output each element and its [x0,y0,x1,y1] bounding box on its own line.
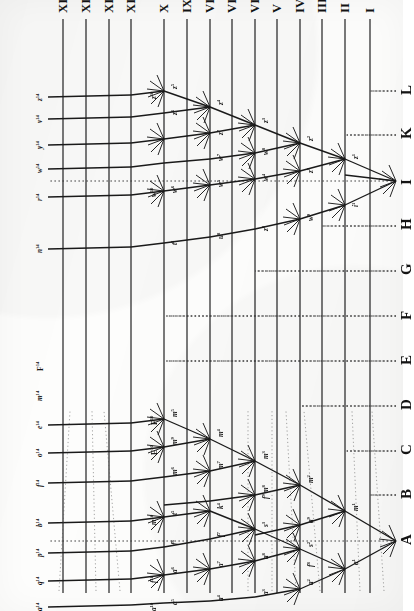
stratum-label-VI: VI [249,0,262,13]
stratum-label-V: V [271,4,284,13]
branch-label-a4: a4 [217,595,226,601]
branch-label-z4: z4 [217,100,226,105]
taxon-label-top-11: w14 [36,164,45,173]
base-species-B: B [399,489,414,499]
branch-label-a7: a7 [217,561,226,567]
taxon-label-top-10: r14 [36,194,45,201]
stratum-label-IV: IV [294,0,307,13]
base-species-H: H [399,218,414,230]
stratum-label-II: II [339,3,352,13]
branch-label-i1: i1 [352,203,361,207]
branch-label-a6: a6 [171,567,180,573]
branch-label-m1: m1 [352,503,361,511]
stratum-label-VIII: VIII [204,0,217,13]
branch-label-f6: f6 [171,540,180,545]
branch-label-w7: w7 [217,154,226,161]
taxon-label-x-1: f10 [150,576,159,583]
taxon-label-x-0: a10 [150,603,159,611]
stratum-label-XI: XI [125,0,138,13]
branch-label-w9: w9 [307,214,316,221]
base-species-F: F [399,311,414,320]
base-species-G: G [399,263,414,275]
stratum-label-XIV: XIV [57,0,70,13]
branch-label-m8: m8 [262,485,271,493]
branch-label-a1: a1 [352,559,361,565]
branch-label-t5: t5 [171,511,180,515]
branch-label-m9: m9 [171,437,180,445]
stratum-label-XII: XII [103,0,116,13]
lineage-I-branches [48,91,396,249]
taxon-label-top-13: v14 [36,115,45,123]
taxon-label-top-0: a14 [36,603,45,611]
branch-label-z9: z9 [307,168,316,173]
taxon-label-x-3: E10 [150,445,158,455]
branch-label-m4: m4 [217,429,226,437]
branch-label-m6: m6 [171,467,180,475]
taxon-label-top-2: p14 [36,549,45,557]
branch-label-m3: m3 [262,451,271,459]
branch-label-a3: a3 [262,589,271,595]
branch-label-a9: a9 [307,517,316,523]
taxon-label-x-6: z10 [150,92,159,99]
taxon-label-top-6: e14 [36,421,45,429]
branch-label-t8: t8 [171,241,180,245]
branch-label-w8: w8 [262,148,271,155]
stratum-label-X: X [158,4,171,13]
base-species-K: K [399,127,414,139]
branch-label-f7: f7 [217,532,226,537]
base-species-L: L [399,85,414,95]
taxon-label-top-14: z14 [36,94,45,101]
branch-label-z1: z1 [352,154,361,159]
branch-label-u8: u8 [217,233,226,239]
taxon-label-top-1: q14 [36,577,45,585]
taxon-label-top-7: m14 [36,391,45,401]
taxon-label-x-5: w10 [150,188,159,197]
base-species-E: E [399,355,414,365]
base-species-D: D [399,399,414,410]
stratum-label-VII: VII [226,0,239,13]
base-species-A: A [399,534,414,545]
branch-label-z5: z5 [171,84,180,89]
branch-label-w5: w5 [217,180,226,187]
stratum-label-I: I [364,8,377,13]
branch-label-s3: s3 [262,522,271,527]
branch-label-w6: w6 [171,186,180,193]
branch-label-m5: m5 [171,409,180,417]
taxon-label-top-8: F14 [36,362,44,371]
taxon-label-x-4: F10 [150,416,158,425]
base-species-I: I [399,179,414,185]
base-species-C: C [399,444,414,455]
taxon-label-top-3: b14 [36,519,45,527]
branch-label-f8: f8 [307,562,316,567]
taxon-label-top-5: o14 [36,449,45,457]
branch-label-z8: z8 [262,226,271,231]
branch-label-z6: z6 [171,110,180,115]
stratum-label-IX: IX [181,0,194,13]
branch-label-s2: s2 [307,542,316,547]
taxon-label-top-4: f14 [36,480,45,487]
branch-label-w4: w4 [262,174,271,181]
taxon-label-x-2: m10 [150,515,159,525]
stratum-label-III: III [316,0,329,13]
branch-label-k4: k4 [217,503,226,509]
taxon-label-top-12: y14 [36,141,45,149]
branch-label-a5: a5 [171,599,180,605]
branch-label-a8: a8 [262,553,271,559]
taxon-label-top-9: n14 [36,244,45,253]
branch-label-a2: a2 [307,579,316,585]
branch-label-z3: z3 [262,118,271,123]
branch-label-m7: m7 [217,461,226,469]
branch-label-z7: z7 [217,130,226,135]
branch-label-m2: m2 [307,475,316,483]
branch-label-z2: z2 [307,136,316,141]
branch-label-f9: f9 [262,494,271,499]
stratum-label-XIII: XIII [80,0,93,13]
